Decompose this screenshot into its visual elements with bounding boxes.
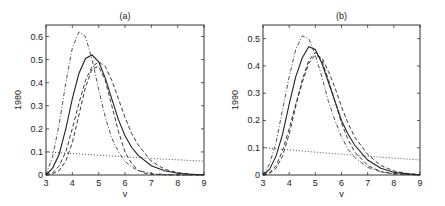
x-tick-label: 6 [339, 178, 344, 188]
y-tick-label: 0.4 [247, 61, 260, 71]
x-tick-label: 8 [175, 178, 180, 188]
y-tick-label: 0.2 [247, 115, 260, 125]
chart-title: (a) [120, 11, 131, 21]
x-tick-label: 9 [417, 178, 422, 188]
x-tick-label: 3 [260, 178, 265, 188]
series-dash-dot [46, 32, 204, 175]
plot-frame [263, 25, 420, 175]
chart-title: (b) [336, 11, 347, 21]
x-tick-label: 5 [313, 178, 318, 188]
y-tick-label: 0.5 [30, 55, 43, 65]
x-axis-label: v [339, 189, 344, 199]
y-tick-label: 0.4 [30, 78, 43, 88]
series-solid [46, 55, 204, 175]
x-axis-label: v [123, 189, 128, 199]
y-tick-label: 0.3 [247, 88, 260, 98]
chart-panel-b: 345678900.10.20.30.40.5(b)v1990 [230, 11, 423, 199]
y-tick-label: 0.2 [30, 124, 43, 134]
y-tick-label: 0.6 [30, 32, 43, 42]
series-dotted [46, 152, 204, 161]
series-solid [263, 47, 420, 175]
chart-panel-a: 345678900.10.20.30.40.50.6(a)v1980 [13, 11, 207, 199]
x-tick-label: 5 [96, 178, 101, 188]
x-tick-label: 9 [201, 178, 206, 188]
x-tick-label: 6 [122, 178, 127, 188]
x-tick-label: 7 [149, 178, 154, 188]
x-tick-label: 4 [287, 178, 292, 188]
x-tick-label: 4 [70, 178, 75, 188]
series-dotted [263, 148, 420, 160]
y-axis-label: 1980 [13, 90, 23, 110]
y-axis-label: 1990 [230, 90, 240, 110]
y-tick-label: 0.5 [247, 34, 260, 44]
x-tick-label: 7 [365, 178, 370, 188]
y-tick-label: 0 [255, 170, 260, 180]
series-dashed-inner [46, 67, 204, 176]
y-tick-label: 0 [38, 170, 43, 180]
y-tick-label: 0.1 [30, 147, 43, 157]
y-tick-label: 0.1 [247, 143, 260, 153]
x-tick-label: 3 [43, 178, 48, 188]
series-dashed-outer [46, 62, 204, 175]
figure: 345678900.10.20.30.40.50.6(a)v1980345678… [0, 0, 445, 206]
x-tick-label: 8 [391, 178, 396, 188]
plot-frame [46, 25, 204, 175]
y-tick-label: 0.3 [30, 101, 43, 111]
